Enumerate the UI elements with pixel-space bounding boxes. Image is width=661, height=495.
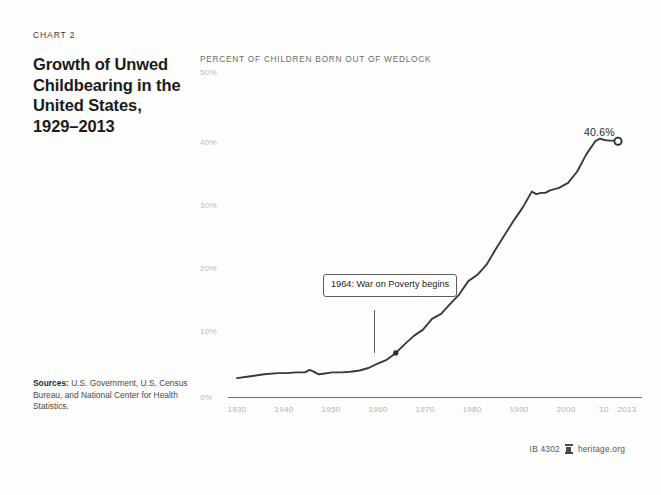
chart-page: CHART 2 Growth of Unwed Childbearing in …: [0, 0, 661, 495]
annotation-leader-line: [374, 310, 375, 353]
line-series: [196, 48, 646, 438]
end-point-marker: [614, 138, 621, 145]
heritage-foundation-logo-icon: [565, 444, 573, 454]
chart-footer: IB 4302 heritage.org: [530, 444, 625, 454]
annotation-callout: 1964: War on Poverty begins: [323, 274, 457, 297]
sources-note: Sources: U.S. Government, U.S. Census Bu…: [33, 378, 201, 413]
chart-header: CHART 2 Growth of Unwed Childbearing in …: [33, 30, 193, 136]
document-id: IB 4302: [530, 444, 560, 454]
chart-container: PERCENT OF CHILDREN BORN OUT OF WEDLOCK …: [196, 48, 646, 438]
website-label: heritage.org: [578, 444, 625, 454]
plot-area: 50% 40% 30% 20% 10% 0% 1930 1940 1950 19…: [196, 48, 646, 438]
annotation-point-marker: [393, 350, 398, 355]
sources-label: Sources:: [33, 378, 69, 388]
page-title: Growth of Unwed Childbearing in the Unit…: [33, 54, 183, 136]
end-value-label: 40.6%: [584, 126, 615, 138]
chart-kicker: CHART 2: [33, 30, 193, 40]
